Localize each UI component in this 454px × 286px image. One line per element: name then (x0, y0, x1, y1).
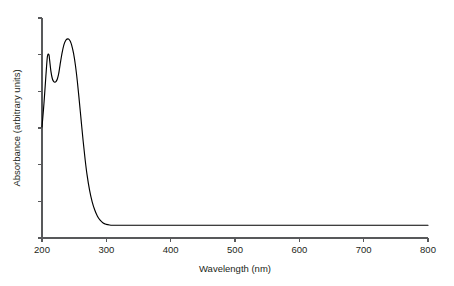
y-axis-title: Absorbance (arbitrary units) (11, 69, 22, 186)
x-axis-tick-label-4: 600 (291, 244, 307, 255)
absorbance-spectrum-chart: 200300400500600700800 Wavelength (nm) Ab… (0, 0, 454, 286)
x-axis-tick-label-6: 800 (420, 244, 436, 255)
chart-background (0, 0, 454, 286)
x-axis-tick-label-2: 400 (163, 244, 179, 255)
spectrum-figure: 200300400500600700800 Wavelength (nm) Ab… (0, 0, 454, 286)
x-axis-title: Wavelength (nm) (199, 263, 271, 274)
x-axis-tick-label-1: 300 (98, 244, 114, 255)
x-axis-tick-label-5: 700 (356, 244, 372, 255)
x-axis-tick-label-3: 500 (227, 244, 243, 255)
x-axis-tick-label-0: 200 (34, 244, 50, 255)
